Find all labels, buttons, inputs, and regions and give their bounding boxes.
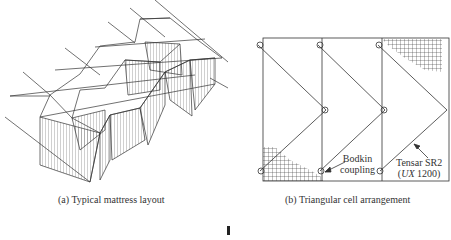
tensar-ux: UX [401, 168, 414, 179]
label-tensar-line1: Tensar SR2 [396, 157, 442, 168]
label-bodkin-line1: Bodkin [340, 153, 375, 164]
ink-mark [227, 226, 230, 235]
label-bodkin-coupling: Bodkin coupling [340, 153, 375, 175]
tensar-1200: 1200) [415, 168, 441, 179]
caption-panel-a: (a) Typical mattress layout [58, 194, 165, 205]
label-tensar: Tensar SR2 (UX 1200) [396, 157, 442, 179]
caption-panel-b: (b) Triangular cell arrangement [285, 194, 410, 205]
label-bodkin-line2: coupling [340, 164, 375, 175]
label-tensar-line2: (UX 1200) [396, 168, 442, 179]
mattress-layout-drawing [5, 0, 228, 182]
